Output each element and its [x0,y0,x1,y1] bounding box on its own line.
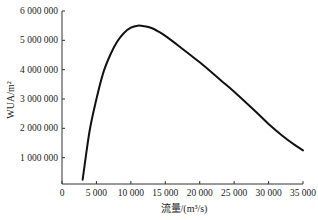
x-tick-label: 5 000 [86,188,108,198]
x-tick-label: 15 000 [152,188,178,198]
y-tick-label: 5 000 000 [20,35,58,45]
x-tick-label: 10 000 [118,188,144,198]
x-tick-label: 30 000 [256,188,282,198]
y-tick-label: 2 000 000 [20,123,58,133]
x-tick-label: 0 [60,188,65,198]
x-tick-label: 35 000 [290,188,316,198]
y-tick-label: 3 000 000 [20,94,58,104]
y-tick-label: 1 000 000 [20,153,58,163]
y-axis: 1 000 0002 000 0003 000 0004 000 0005 00… [20,6,65,184]
wua-curve [83,26,303,180]
wua-flow-line-chart: 1 000 0002 000 0003 000 0004 000 0005 00… [0,0,318,220]
x-tick-label: 20 000 [187,188,213,198]
y-tick-label: 4 000 000 [20,65,58,75]
y-tick-label: 6 000 000 [20,6,58,16]
x-axis-title: 流量/(m³/s) [161,202,208,215]
x-tick-label: 25 000 [221,188,247,198]
y-axis-title: WUA/m² [5,81,16,118]
x-axis: 05 00010 00015 00020 00025 00030 00035 0… [60,181,317,198]
